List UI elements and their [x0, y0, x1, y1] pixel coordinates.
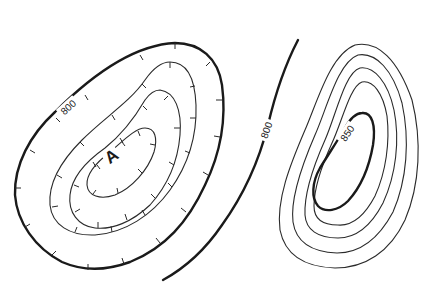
hill-contour-4 — [314, 82, 388, 225]
depression-contour-4 — [87, 128, 156, 197]
hill-contour-1 — [279, 44, 418, 268]
middle-index-contour-800 — [163, 40, 298, 280]
hill-contour-3 — [305, 68, 397, 238]
contour-map: 800 A 800 850 — [0, 0, 431, 295]
depression-contour-3 — [70, 90, 181, 228]
middle-contour-feature: 800 — [163, 40, 298, 280]
hill-feature: 850 — [279, 44, 418, 268]
depression-feature: 800 A — [15, 43, 223, 270]
